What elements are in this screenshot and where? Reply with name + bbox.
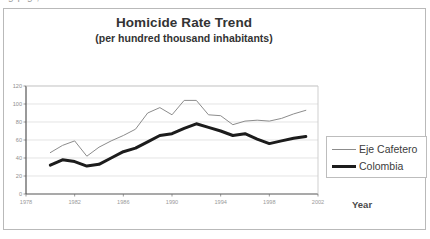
legend-item-eje-cafetero: Eje Cafetero [327, 141, 426, 158]
x-tick-label: 1986 [117, 199, 129, 205]
plot-area: 0204060801001201978198219861990199419982… [4, 9, 427, 231]
y-tick-label: 0 [19, 191, 22, 197]
clipped-text: g p g , [8, 0, 40, 2]
y-tick-label: 60 [16, 137, 22, 143]
x-tick-label: 1994 [214, 199, 226, 205]
y-tick-label: 100 [13, 101, 22, 107]
x-tick-label: 1990 [166, 199, 178, 205]
legend-label: Colombia [359, 161, 403, 172]
y-tick-label: 80 [16, 119, 22, 125]
x-axis-title: Year [352, 199, 372, 210]
line-chart: 0204060801001201978198219861990199419982… [4, 9, 427, 231]
chart-container: Homicide Rate Trend (per hundred thousan… [3, 8, 426, 230]
clipped-text-above: g p g , [0, 0, 430, 7]
x-tick-label: 1998 [263, 199, 275, 205]
x-tick-label: 1982 [68, 199, 80, 205]
x-tick-label: 1978 [20, 199, 32, 205]
y-tick-label: 120 [13, 83, 22, 89]
legend-item-colombia: Colombia [327, 158, 426, 175]
chart-legend: Eje Cafetero Colombia [326, 136, 427, 178]
y-tick-label: 20 [16, 173, 22, 179]
y-tick-label: 40 [16, 155, 22, 161]
x-tick-label: 2002 [312, 199, 324, 205]
legend-label: Eje Cafetero [359, 144, 417, 155]
legend-swatch-line-icon [332, 145, 356, 155]
legend-swatch-line-icon [332, 162, 356, 172]
